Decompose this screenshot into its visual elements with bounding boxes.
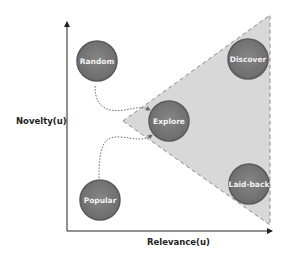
node-label: Discover [230,55,267,64]
node-explore: Explore [149,101,189,141]
node-laid-back: Laid-back [229,164,271,204]
relevance-novelty-diagram: Novelty(u) Relevance(u) Random Discover … [0,0,285,256]
node-label: Popular [84,196,117,205]
y-axis-label: Novelty(u) [16,116,67,126]
node-label: Laid-back [229,180,271,189]
node-label: Explore [153,117,185,126]
node-label: Random [80,57,115,66]
edge-popular-to-explore [99,135,152,178]
node-popular: Popular [80,180,120,220]
node-discover: Discover [228,39,268,79]
x-axis-label: Relevance(u) [147,237,210,247]
node-random: Random [77,41,117,81]
